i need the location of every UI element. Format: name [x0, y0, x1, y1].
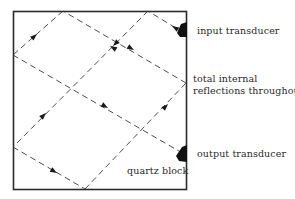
ray-segment	[13, 147, 85, 189]
output-transducer-label: output transducer	[197, 148, 286, 159]
total-internal-reflections-label-line2: reflections throughout	[193, 85, 295, 96]
ray-paths	[13, 11, 186, 189]
arrow-icon	[109, 44, 118, 52]
arrow-icon	[161, 102, 170, 111]
ray-segment	[13, 55, 184, 154]
arrow-icon	[39, 111, 48, 120]
output-transducer-icon	[176, 145, 187, 162]
arrow-icon	[50, 167, 59, 175]
input-transducer-icon	[177, 22, 187, 37]
quartz-block-label: quartz block	[127, 165, 188, 176]
ray-segment	[13, 11, 63, 55]
ray-segment	[13, 11, 148, 147]
ray-segment	[63, 11, 186, 83]
arrow-icon	[101, 102, 110, 110]
direction-arrows	[30, 24, 179, 175]
input-transducer-label: input transducer	[197, 25, 280, 36]
arrow-icon	[171, 24, 180, 32]
total-internal-reflections-label-line1: total internal	[193, 73, 257, 84]
